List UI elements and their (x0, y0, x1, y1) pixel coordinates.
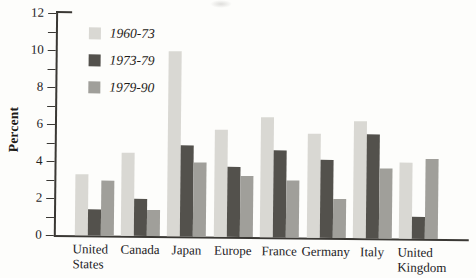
bar-united-kingdom-1973-79 (412, 217, 425, 239)
bar-canada-1979-90 (147, 210, 160, 236)
bar-united-states-1960-73 (74, 174, 88, 235)
y-axis-tick (46, 216, 54, 217)
y-axis-tick (47, 124, 55, 125)
y-axis-tick-label: 12 (14, 6, 44, 20)
y-axis-tick-label: 4 (12, 154, 42, 168)
bar-germany-1973-79 (319, 160, 333, 238)
bar-france-1979-90 (286, 180, 300, 237)
y-axis-tick-label: 8 (13, 80, 43, 94)
legend-swatch-1960-73 (89, 27, 101, 39)
legend-item-1979-90: 1979-90 (88, 80, 178, 95)
y-axis-tick (48, 31, 56, 32)
bar-japan-1979-90 (193, 162, 207, 236)
bar-italy-1973-79 (366, 135, 380, 239)
bar-germany-1979-90 (332, 199, 345, 238)
bar-france-1960-73 (260, 117, 274, 237)
y-axis-tick (48, 68, 56, 69)
y-axis-tick (46, 235, 54, 236)
legend-item-1973-79: 1973-79 (89, 53, 179, 68)
bar-united-kingdom-1960-73 (399, 163, 413, 239)
y-axis-tick (47, 142, 55, 143)
y-axis-top-hook (56, 11, 72, 13)
category-label-italy: Italy (338, 245, 406, 260)
bar-united-states-1979-90 (100, 180, 114, 236)
bar-canada-1960-73 (121, 152, 135, 235)
legend-item-1960-73: 1960-73 (89, 26, 179, 41)
bar-europe-1973-79 (226, 166, 240, 236)
bar-europe-1979-90 (239, 176, 253, 237)
y-axis-tick (46, 179, 54, 180)
bar-germany-1960-73 (306, 134, 320, 238)
legend-label-1973-79: 1973-79 (110, 54, 155, 68)
y-axis-tick-label: 6 (13, 117, 43, 131)
y-axis-tick (47, 87, 55, 88)
y-axis-tick (48, 13, 56, 14)
legend-swatch-1979-90 (88, 81, 100, 93)
bar-united-kingdom-1979-90 (425, 159, 439, 239)
y-axis-tick-label: 10 (14, 43, 44, 57)
legend-label-1979-90: 1979-90 (109, 81, 154, 95)
category-label-united-kingdom: United Kingdom (397, 246, 467, 276)
y-axis-tick-label: 2 (12, 191, 42, 205)
y-axis-tick (47, 105, 55, 106)
bar-japan-1973-79 (180, 146, 194, 237)
bar-canada-1973-79 (134, 199, 147, 236)
y-axis-tick-label: 0 (12, 228, 42, 242)
y-axis-tick (46, 198, 54, 199)
bar-europe-1960-73 (213, 129, 227, 236)
plot-area: 024681012United StatesCanadaJapanEuropeF… (1, 0, 476, 4)
legend: 1960-731973-791979-90 (1, 0, 476, 4)
bar-france-1973-79 (273, 150, 287, 237)
chart-canvas: Percent 024681012United StatesCanadaJapa… (0, 0, 476, 278)
y-axis-tick (47, 161, 55, 162)
bar-united-states-1973-79 (87, 209, 100, 235)
legend-label-1960-73: 1960-73 (110, 27, 155, 41)
legend-swatch-1973-79 (89, 54, 101, 66)
bar-italy-1979-90 (379, 168, 393, 238)
y-axis-tick (48, 50, 56, 51)
bar-italy-1960-73 (353, 122, 367, 239)
